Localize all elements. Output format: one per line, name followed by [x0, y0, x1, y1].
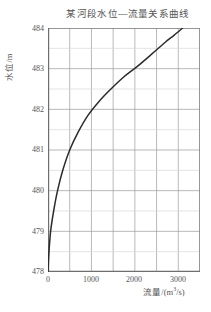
y-tick-label: 484 [18, 24, 44, 33]
x-tick-label: 2000 [114, 275, 154, 284]
y-tick-label: 482 [18, 105, 44, 114]
x-tick-label: 1000 [71, 275, 111, 284]
chart-figure: 某河段水位—流量关系曲线 水位/m 流量/(m3/s) 484 483 482 … [0, 0, 211, 312]
grid-minor-lines [48, 28, 200, 272]
x-tick-label: 0 [28, 275, 68, 284]
y-tick-label: 480 [18, 186, 44, 195]
x-axis-label-main: 流量/(m [143, 287, 173, 297]
y-tick-label: 479 [18, 227, 44, 236]
y-tick-label: 481 [18, 145, 44, 154]
y-axis-label: 水位/m [4, 43, 14, 91]
plot-area [48, 28, 200, 272]
x-axis-label: 流量/(m3/s) [118, 287, 210, 297]
y-tick-label: 483 [18, 64, 44, 73]
x-tick-label: 3000 [158, 275, 198, 284]
x-axis-label-tail: /s) [176, 287, 185, 297]
plot-svg [48, 28, 200, 272]
chart-title: 某河段水位—流量关系曲线 [48, 8, 208, 20]
